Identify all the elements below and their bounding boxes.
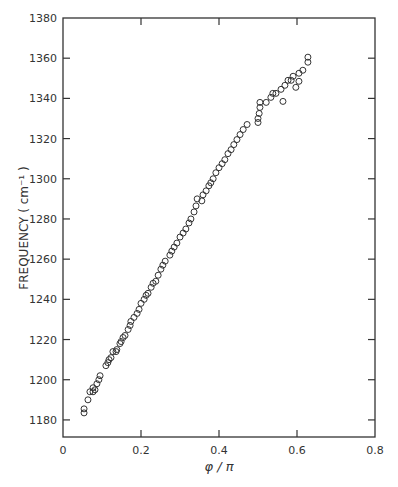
y-tick-label: 1240 bbox=[29, 293, 57, 306]
data-point bbox=[296, 78, 302, 84]
y-tick-label: 1360 bbox=[29, 52, 57, 65]
data-point bbox=[216, 165, 222, 171]
data-point bbox=[85, 397, 91, 403]
plot-frame bbox=[63, 18, 375, 437]
data-point bbox=[280, 98, 286, 104]
data-points bbox=[81, 54, 311, 416]
y-axis-ticks: 1180120012201240126012801300132013401360… bbox=[29, 12, 375, 427]
y-tick-label: 1340 bbox=[29, 92, 57, 105]
y-tick-label: 1220 bbox=[29, 334, 57, 347]
y-tick-label: 1320 bbox=[29, 133, 57, 146]
data-point bbox=[300, 67, 306, 73]
y-tick-label: 1380 bbox=[29, 12, 57, 25]
data-point bbox=[155, 272, 161, 278]
y-tick-label: 1260 bbox=[29, 253, 57, 266]
data-point bbox=[200, 192, 206, 198]
data-point bbox=[138, 300, 144, 306]
data-point bbox=[191, 209, 197, 215]
data-point bbox=[244, 122, 250, 128]
y-tick-label: 1200 bbox=[29, 374, 57, 387]
data-point bbox=[193, 203, 199, 209]
data-point bbox=[296, 70, 302, 76]
data-point bbox=[177, 234, 183, 240]
data-point bbox=[293, 84, 299, 90]
x-tick-label: 0.2 bbox=[132, 444, 150, 457]
data-point bbox=[263, 99, 269, 105]
x-tick-label: 0.6 bbox=[288, 444, 306, 457]
data-point bbox=[128, 318, 134, 324]
data-point bbox=[81, 406, 87, 412]
x-axis-label: φ / π bbox=[204, 459, 233, 474]
x-tick-label: 0.4 bbox=[210, 444, 228, 457]
plot-border bbox=[63, 18, 375, 437]
data-point bbox=[225, 151, 231, 157]
data-point bbox=[131, 314, 137, 320]
y-tick-label: 1180 bbox=[29, 414, 57, 427]
x-tick-label: 0 bbox=[60, 444, 67, 457]
y-tick-label: 1280 bbox=[29, 213, 57, 226]
x-tick-label: 0.8 bbox=[366, 444, 384, 457]
y-axis-label: FREQUENCY ( cm⁻¹ ) bbox=[17, 166, 31, 289]
scatter-chart: 00.20.40.60.8 11801200122012401260128013… bbox=[0, 0, 398, 487]
y-tick-label: 1300 bbox=[29, 173, 57, 186]
x-axis-ticks: 00.20.40.60.8 bbox=[60, 18, 384, 457]
data-point bbox=[97, 373, 103, 379]
